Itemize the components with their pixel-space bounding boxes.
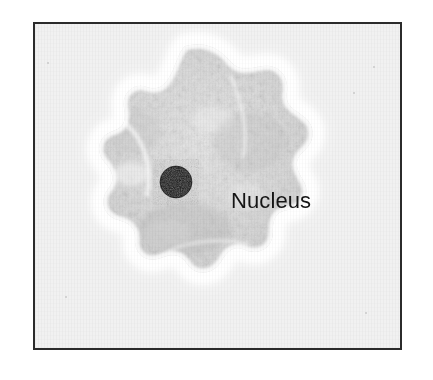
figure-frame: Nucleus <box>33 22 402 350</box>
nucleus <box>160 166 192 198</box>
cytoplasm-light-patch <box>114 162 148 186</box>
nucleus-label: Nucleus <box>231 188 311 214</box>
cell-micrograph <box>35 24 400 348</box>
figure-root: Nucleus <box>0 0 433 380</box>
cytoplasm-dark-patch <box>213 112 285 172</box>
cytoplasm-dark-patch <box>139 203 231 255</box>
